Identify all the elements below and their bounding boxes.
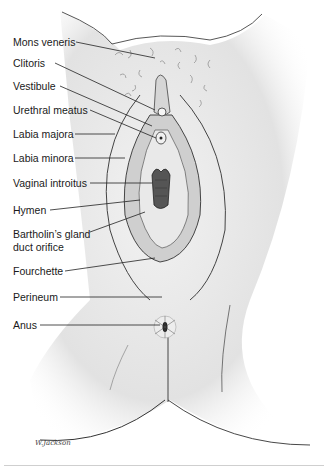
label-vestibule: Vestibule <box>13 80 56 92</box>
vaginal-introitus <box>152 169 170 208</box>
artist-signature: W.Jackson <box>35 439 71 447</box>
label-fourchette: Fourchette <box>13 265 63 277</box>
label-perineum: Perineum <box>13 291 58 303</box>
bottom-divider <box>4 465 324 466</box>
label-clitoris: Clitoris <box>13 57 45 69</box>
label-urethral-meatus: Urethral meatus <box>13 104 88 116</box>
anus <box>154 316 176 338</box>
label-labia-minora: Labia minora <box>13 152 74 164</box>
urethral-meatus <box>156 132 166 144</box>
label-vaginal-introitus: Vaginal introitus <box>13 177 87 189</box>
label-anus: Anus <box>13 319 37 331</box>
label-hymen: Hymen <box>13 204 46 216</box>
label-bartholins-gland: Bartholin’s gland <box>13 228 90 240</box>
label-duct-orifice: duct orifice <box>13 241 64 253</box>
label-mons-veneris: Mons veneris <box>13 36 75 48</box>
label-labia-majora: Labia majora <box>13 128 74 140</box>
